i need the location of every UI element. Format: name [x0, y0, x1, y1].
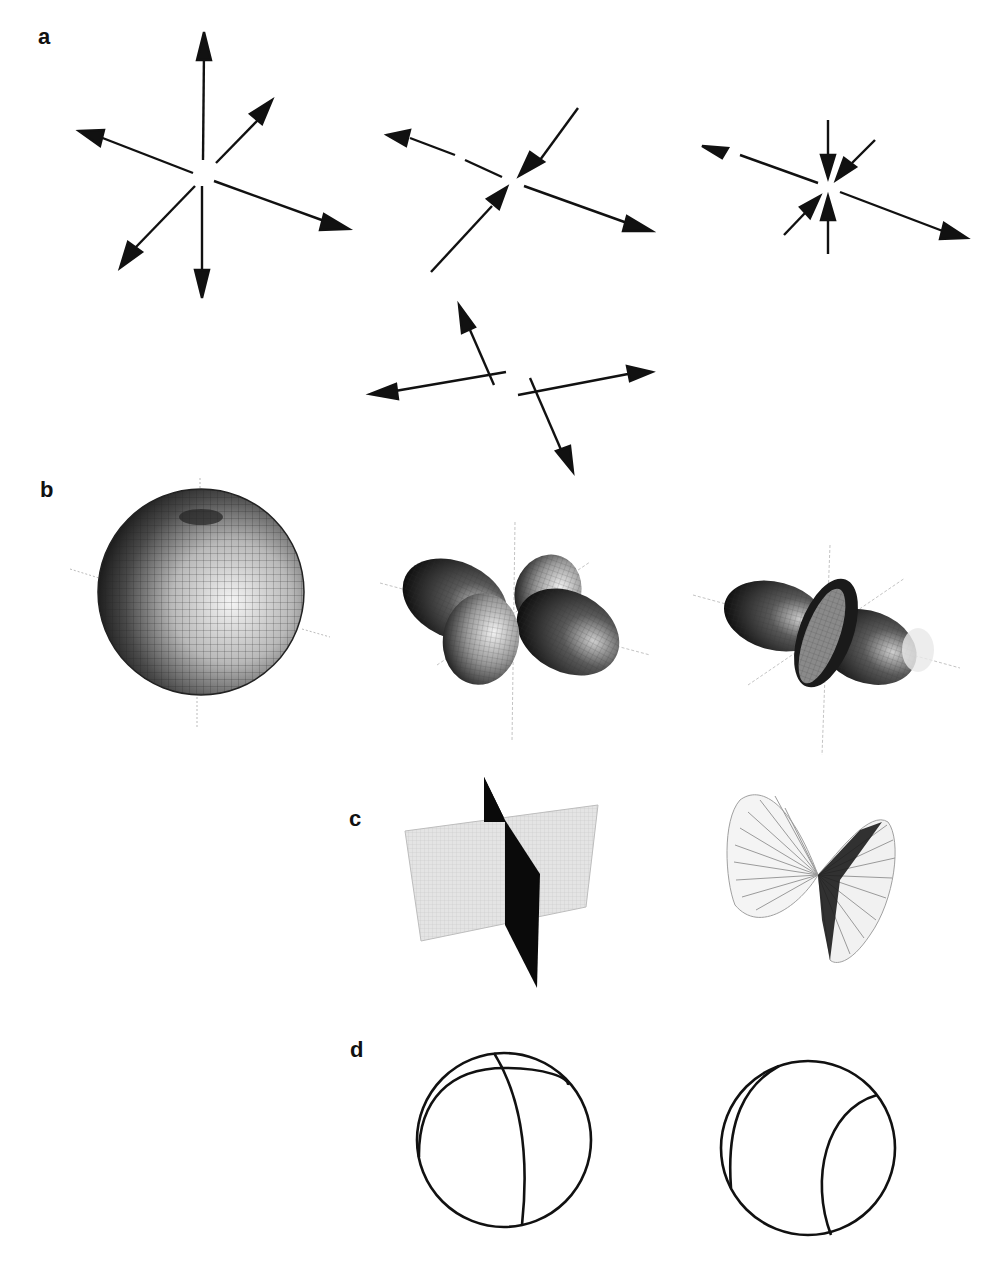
- panel-a-double-couple: [370, 305, 652, 472]
- panel-c-orthogonal-planes: [405, 777, 598, 988]
- panel-c-cones: [727, 795, 895, 963]
- panel-a-explosion: [79, 32, 349, 298]
- panel-d-beachball-2: [721, 1061, 895, 1235]
- panel-b-sphere: [70, 478, 330, 728]
- panel-b-clvd: [693, 545, 960, 755]
- panel-a-clvd-1: [387, 108, 652, 272]
- figure-canvas: [0, 0, 1002, 1261]
- panel-a-clvd-2: [702, 120, 967, 254]
- panel-b-four-lobe: [380, 522, 650, 742]
- panel-d-beachball-1: [417, 1053, 591, 1227]
